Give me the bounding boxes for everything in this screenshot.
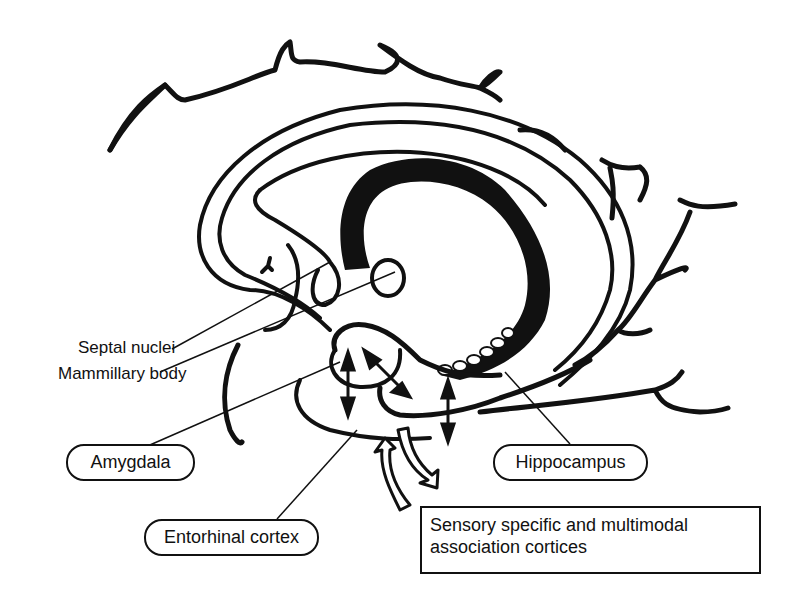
entorhinal-cortex-label: Entorhinal cortex (144, 519, 319, 556)
leader-entorhinal (277, 430, 357, 519)
mammillary-body (372, 260, 404, 296)
association-cortices-line2: association cortices (430, 536, 751, 558)
sulcus-right-1 (520, 130, 565, 150)
corpus-callosum-outer (199, 104, 632, 385)
hippocampal-arc (340, 158, 550, 380)
amygdala-label: Amygdala (66, 444, 195, 481)
septal-nuclei-label: Septal nuclei (78, 338, 175, 358)
association-cortices-label: Sensory specific and multimodal associat… (420, 506, 761, 574)
arrow-amygdala-diagonal (364, 350, 410, 397)
cortex-outline-left (110, 85, 165, 150)
sulcus-right-3 (575, 200, 735, 365)
hippocampus-label: Hippocampus (493, 444, 648, 481)
association-cortices-line1: Sensory specific and multimodal (430, 514, 751, 536)
left-arc (225, 345, 242, 443)
cortex-outline (110, 42, 500, 150)
mammillary-body-label: Mammillary body (58, 364, 186, 384)
leader-mammillary (160, 272, 395, 372)
septal-mark (262, 258, 272, 272)
